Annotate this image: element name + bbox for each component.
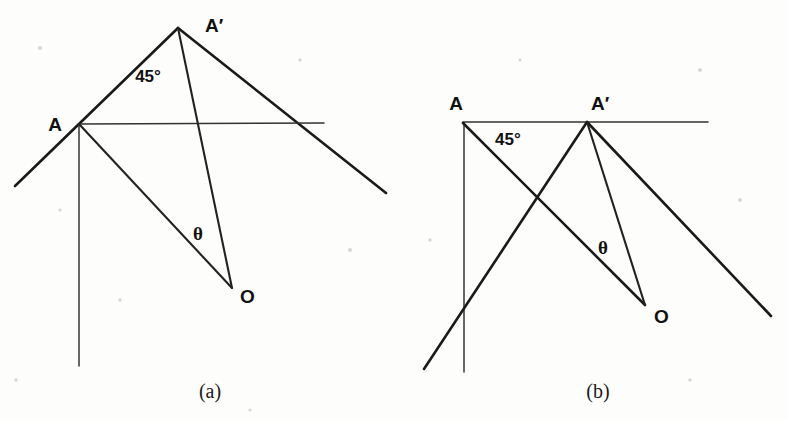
panel-a-label-A-prime: A′ [205, 15, 224, 36]
panel-b-caption: (b) [586, 380, 609, 403]
panel-a-label-A: A [48, 114, 62, 135]
panel-b-label-O: O [654, 306, 669, 327]
panel-b-label-angle-theta: θ [598, 237, 608, 258]
figure-root: A A′ O 45° θ (a) A A′ O 45° θ (b) [0, 0, 788, 421]
panel-b-label-A-prime: A′ [591, 93, 610, 114]
geometry-figure-svg: A A′ O 45° θ (a) A A′ O 45° θ (b) [0, 0, 788, 421]
panel-a-label-O: O [240, 286, 255, 307]
panel-a-horizontal-axis [79, 123, 324, 124]
panel-a-caption: (a) [199, 380, 221, 403]
panel-a-label-angle-45: 45° [135, 67, 161, 86]
panel-a-label-angle-theta: θ [193, 223, 203, 244]
panel-b-label-angle-45: 45° [495, 130, 521, 149]
panel-b-label-A: A [449, 93, 463, 114]
